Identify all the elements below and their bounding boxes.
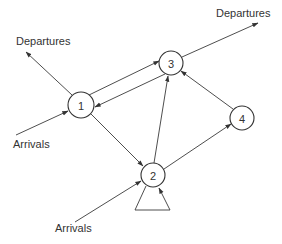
edge-3-to-1 — [95, 74, 165, 107]
node-4-label: 4 — [239, 113, 245, 125]
departures-left-label: Departures — [16, 35, 71, 47]
queueing-network-diagram: 1 2 3 4 Departures Departures Arrivals A… — [0, 0, 282, 244]
node-3-label: 3 — [168, 58, 174, 70]
node-3: 3 — [159, 51, 183, 75]
edge-1-to-3 — [89, 61, 159, 95]
edge-1-to-2 — [91, 114, 143, 166]
node-2: 2 — [141, 163, 165, 187]
node-2-label: 2 — [150, 170, 156, 182]
node-1-label: 1 — [78, 100, 84, 112]
edge-arrivals-1 — [16, 111, 68, 135]
edge-arrivals-2 — [75, 181, 141, 222]
edge-1-departures — [26, 52, 72, 95]
arrivals-left-label: Arrivals — [13, 138, 50, 150]
edge-2-to-4 — [164, 124, 231, 169]
node-1: 1 — [68, 92, 94, 118]
departures-right-label: Departures — [216, 7, 271, 19]
edge-3-departures — [182, 23, 258, 57]
node-4: 4 — [230, 106, 254, 130]
arrivals-bottom-label: Arrivals — [55, 222, 92, 234]
edge-4-to-3 — [181, 71, 233, 109]
self-loop-2 — [135, 186, 170, 210]
edge-2-to-3 — [154, 76, 168, 163]
